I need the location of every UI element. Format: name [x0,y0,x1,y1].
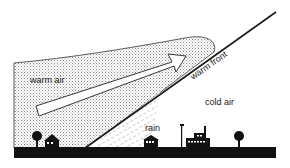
warm-front-diagram: warm air warm front cold air rain [0,0,290,168]
label-rain: rain [145,123,160,133]
factory-icon [186,126,210,148]
tree-icon [234,131,244,148]
ground [14,147,276,158]
label-cold-air: cold air [205,97,234,107]
flagpole-icon [180,124,184,148]
label-warm-air: warm air [29,75,65,85]
